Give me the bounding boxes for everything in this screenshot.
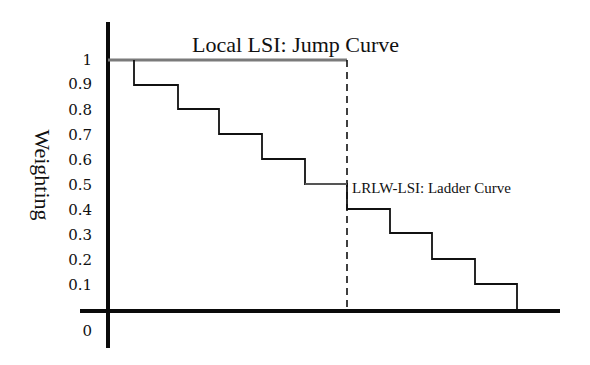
jump-curve-label: Local LSI: Jump Curve (192, 32, 399, 58)
y-tick-0.5: 0.5 (52, 177, 92, 193)
y-tick-0.9: 0.9 (52, 76, 92, 92)
y-tick-0.3: 0.3 (52, 227, 92, 243)
ladder-curve-label: LRLW-LSI: Ladder Curve (352, 180, 511, 197)
y-tick-0.1: 0.1 (52, 277, 92, 293)
y-tick-0.4: 0.4 (52, 202, 92, 218)
y-axis-label: Weighting (29, 125, 55, 225)
y-tick-0.6: 0.6 (52, 152, 92, 168)
y-tick-0.7: 0.7 (52, 127, 92, 143)
y-tick-0: 0 (52, 323, 92, 339)
y-tick-0.2: 0.2 (52, 252, 92, 268)
y-tick-1: 1 (52, 52, 92, 68)
y-tick-0.8: 0.8 (52, 102, 92, 118)
